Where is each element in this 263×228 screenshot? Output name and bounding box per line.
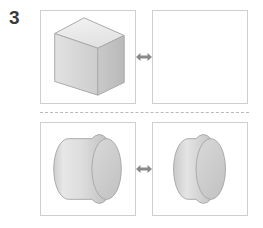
panel-bottom-left[interactable] — [40, 122, 136, 216]
panel-bottom-right[interactable] — [152, 122, 248, 216]
row-divider — [40, 112, 249, 113]
double-arrow-icon-top — [135, 51, 153, 63]
question-number: 3 — [9, 8, 20, 27]
cylinder-near-cap — [196, 139, 225, 200]
panel-top-left[interactable] — [40, 10, 136, 104]
double-arrow-glyph — [136, 53, 152, 61]
double-arrow-glyph — [136, 165, 152, 173]
rectangular-box-shape — [41, 11, 135, 103]
panel-top-right[interactable] — [152, 10, 248, 104]
cylinder-near-cap — [92, 139, 121, 200]
narrow-cylinder-shape — [153, 123, 247, 215]
double-arrow-icon-bottom — [135, 163, 153, 175]
figure-stage: 3 — [0, 0, 263, 228]
wide-cylinder-shape — [41, 123, 135, 215]
empty-answer-area — [153, 11, 247, 103]
